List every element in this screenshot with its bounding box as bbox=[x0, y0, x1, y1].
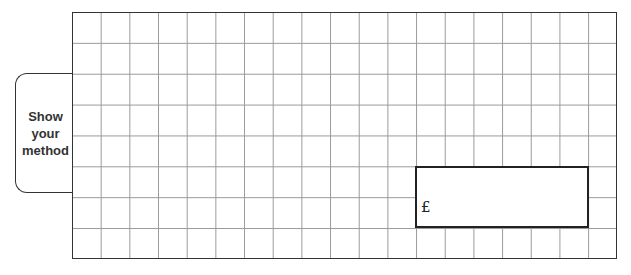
answer-box[interactable]: £ bbox=[415, 166, 589, 228]
method-label-line-1: Show bbox=[28, 108, 63, 125]
show-your-method-tab: Show your method bbox=[15, 73, 75, 193]
method-label-line-2: your bbox=[31, 125, 59, 142]
method-label-line-3: method bbox=[22, 142, 69, 159]
pound-sign: £ bbox=[421, 200, 431, 215]
